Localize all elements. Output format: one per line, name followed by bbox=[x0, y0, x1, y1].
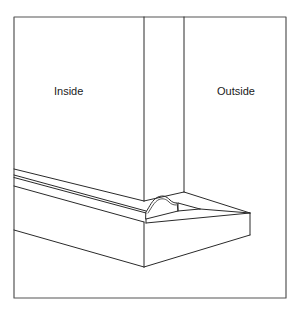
outer-frame bbox=[14, 17, 286, 298]
outside-label: Outside bbox=[217, 86, 255, 97]
door-panel bbox=[144, 17, 184, 201]
inside-label: Inside bbox=[54, 86, 83, 97]
threshold-strips bbox=[14, 169, 146, 222]
weatherstrip-bulb bbox=[146, 196, 178, 223]
sloped-sill bbox=[146, 192, 250, 235]
sill-block bbox=[14, 222, 250, 267]
threshold-diagram bbox=[0, 0, 296, 309]
